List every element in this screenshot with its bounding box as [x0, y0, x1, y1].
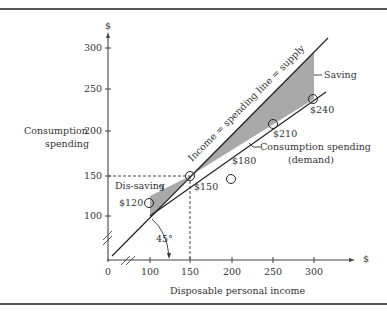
y-tick-250: 250 — [84, 83, 102, 94]
point-label-180: $180 — [232, 155, 256, 166]
angle-arrow-icon — [167, 253, 171, 259]
angle-label: 45° — [156, 233, 173, 244]
y-axis-title-line2: spending — [45, 138, 89, 149]
x-tick-150: 150 — [181, 266, 199, 277]
x-tick-100: 100 — [141, 266, 159, 277]
point-label-240: $240 — [310, 104, 334, 115]
y-axis-arrow-icon — [106, 32, 110, 38]
bottom-rule — [0, 303, 387, 305]
point-180 — [227, 175, 236, 184]
point-label-120: $120 — [119, 197, 143, 208]
consumption-label-line1: Consumption spending — [260, 141, 371, 152]
saving-label: Saving — [324, 69, 357, 80]
y-axis-title-line1: Consumption — [24, 125, 88, 136]
dis-saving-label: Dis-saving — [115, 180, 165, 191]
x-tick-200: 200 — [223, 266, 241, 277]
consumption-label-line2: (demand) — [288, 154, 334, 165]
y-axis-unit: $ — [105, 20, 111, 31]
y-tick-300: 300 — [84, 42, 102, 53]
x-tick-300: 300 — [305, 266, 323, 277]
x-axis-title: Disposable personal income — [170, 285, 305, 296]
point-label-210: $210 — [273, 128, 297, 139]
x-tick-250: 250 — [264, 266, 282, 277]
x-axis-arrow-icon — [349, 258, 355, 262]
x-tick-0: 0 — [105, 266, 111, 277]
consumption-leader — [249, 143, 260, 147]
x-axis-unit: $ — [363, 253, 369, 264]
y-tick-100: 100 — [84, 210, 102, 221]
y-tick-150: 150 — [84, 170, 102, 181]
point-label-150: $150 — [194, 181, 218, 192]
